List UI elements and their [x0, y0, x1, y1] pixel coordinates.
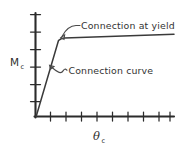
- moment-rotation-diagram: M c θ c Connection at yield Connection c…: [0, 0, 183, 151]
- figure-container: M c θ c Connection at yield Connection c…: [0, 0, 183, 151]
- x-axis-label: θ: [93, 129, 100, 143]
- x-axis-label-subscript: c: [102, 137, 106, 145]
- y-axis-label: M: [10, 56, 19, 68]
- y-axis-label-subscript: c: [21, 63, 25, 71]
- yield-annotation-label: Connection at yield: [81, 20, 175, 31]
- curve-annotation-label: Connection curve: [69, 65, 154, 76]
